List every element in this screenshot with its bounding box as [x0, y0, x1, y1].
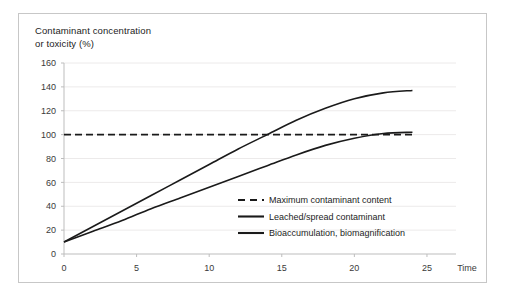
chart-legend: Maximum contaminant contentLeached/sprea…	[238, 195, 405, 238]
y-tick-label: 20	[46, 225, 56, 235]
chart-figure-frame: Contaminant concentration or toxicity (%…	[18, 13, 487, 283]
y-tick-label: 80	[46, 154, 56, 164]
legend-label-0: Maximum contaminant content	[269, 195, 392, 205]
line-chart-plot: 020406080100120140160 0510152025 Time Ma…	[19, 14, 486, 282]
y-tick-label: 100	[41, 130, 56, 140]
x-tick-label: 25	[422, 263, 432, 273]
legend-label-1: Leached/spread contaminant	[269, 212, 386, 222]
x-tick-label: 10	[204, 263, 214, 273]
x-tick-label: 15	[277, 263, 287, 273]
y-tick-label: 140	[41, 82, 56, 92]
y-tick-label: 0	[51, 249, 56, 259]
y-tick-labels-group: 020406080100120140160	[41, 58, 64, 259]
y-tick-label: 120	[41, 106, 56, 116]
x-tick-label: 20	[349, 263, 359, 273]
x-axis-label: Time	[457, 263, 477, 273]
gridlines-group	[64, 63, 456, 230]
x-tick-label: 5	[134, 263, 139, 273]
y-tick-label: 160	[41, 58, 56, 68]
y-tick-label: 60	[46, 178, 56, 188]
x-tick-labels-group: 0510152025	[61, 263, 431, 273]
x-tick-label: 0	[61, 263, 66, 273]
legend-label-2: Bioaccumulation, biomagnification	[269, 228, 405, 238]
y-tick-label: 40	[46, 201, 56, 211]
